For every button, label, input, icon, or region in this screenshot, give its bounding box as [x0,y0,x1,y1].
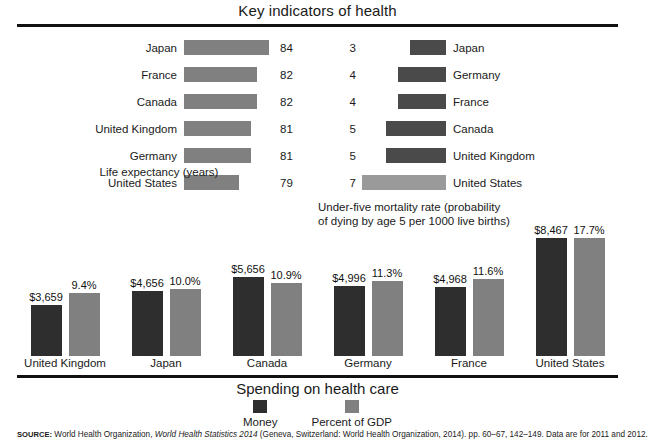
under-five-mortality-chart: 3Japan4Germany4France5Canada5United King… [318,34,635,199]
spending-gdp-barwrap: 11.3% [372,281,403,356]
mortality-bar-track [360,67,446,82]
spending-money-value-label: $4,656 [130,277,164,289]
source-text-after: (Geneva, Switzerland: World Health Organ… [258,430,648,439]
life-expectancy-row: United Kingdom81 [0,115,318,142]
life-expectancy-caption: Life expectancy (years) [0,166,318,178]
mortality-value-label: 5 [318,150,360,162]
life-expectancy-country-label: France [0,69,184,81]
life-expectancy-bar-track [184,40,276,55]
life-expectancy-row: Germany81 [0,142,318,169]
source-publication-title: World Health Statistics 2014 [155,430,258,439]
life-expectancy-value-label: 82 [276,96,293,108]
legend-label: Money [243,416,278,428]
life-expectancy-country-label: Japan [0,42,184,54]
mortality-row: 4France [318,88,635,115]
spending-chart: $3,6599.4%$4,65610.0%$5,65610.9%$4,99611… [17,222,618,356]
spending-title: Spending on health care [0,380,635,397]
life-expectancy-bar-track [184,67,276,82]
mortality-bar [386,148,446,163]
source-tag: SOURCE: [17,430,52,439]
spending-money-bar [31,305,62,356]
mortality-bar [398,67,446,82]
life-expectancy-row: France82 [0,61,318,88]
spending-gdp-barwrap: 10.0% [170,289,201,356]
spending-gdp-value-label: 10.9% [270,269,301,281]
spending-group: $5,65610.9% [219,222,315,356]
mortality-bar-track [360,148,446,163]
spending-gdp-bar [271,283,302,356]
spending-money-barwrap: $4,656 [132,291,163,356]
page-title: Key indicators of health [0,2,635,19]
spending-money-barwrap: $5,656 [233,277,264,356]
mortality-bar-track [360,121,446,136]
mortality-country-label: Japan [446,42,484,54]
spending-gdp-barwrap: 17.7% [574,238,605,356]
life-expectancy-row: Canada82 [0,88,318,115]
mortality-bar [362,175,446,190]
spending-category-label: Canada [219,357,315,369]
mortality-country-label: Germany [446,69,500,81]
mortality-bar [410,40,446,55]
legend-label: Percent of GDP [311,416,392,428]
spending-gdp-value-label: 9.4% [71,279,96,291]
mortality-country-label: United States [446,177,522,189]
mortality-row: 5United Kingdom [318,142,635,169]
spending-category-label: United States [522,357,618,369]
mortality-value-label: 5 [318,123,360,135]
life-expectancy-country-label: United States [0,177,184,189]
legend-swatch [345,400,359,413]
life-expectancy-value-label: 79 [276,177,293,189]
mortality-bar [386,121,446,136]
legend-item: Money [243,400,278,428]
spending-gdp-value-label: 17.7% [573,224,604,236]
spending-money-value-label: $8,467 [534,224,568,236]
life-expectancy-bar [184,148,251,163]
spending-category-label: France [421,357,517,369]
spending-category-label: Japan [118,357,214,369]
spending-money-barwrap: $4,996 [334,286,365,356]
mortality-row: 7United States [318,169,635,196]
mortality-bar-track [360,94,446,109]
spending-category-label: Germany [320,357,416,369]
spending-money-bar [233,277,264,356]
mortality-bar-track [360,175,446,190]
spending-gdp-bar [473,279,504,356]
spending-money-value-label: $4,968 [433,273,467,285]
life-expectancy-value-label: 82 [276,69,293,81]
spending-category-label: United Kingdom [17,357,113,369]
spending-gdp-value-label: 11.3% [372,267,402,279]
spending-gdp-bar [170,289,201,356]
spending-money-value-label: $4,996 [332,272,366,284]
spending-legend: MoneyPercent of GDP [0,400,635,428]
life-expectancy-country-label: Canada [0,96,184,108]
header-divider [17,24,618,27]
life-expectancy-bar [184,40,269,55]
mortality-country-label: Canada [446,123,493,135]
spending-group: $4,99611.3% [320,222,416,356]
spending-money-barwrap: $8,467 [536,238,567,356]
mortality-country-label: France [446,96,489,108]
spending-gdp-value-label: 10.0% [169,275,200,287]
life-expectancy-bar-track [184,94,276,109]
spending-money-value-label: $3,659 [29,291,63,303]
mortality-row: 5Canada [318,115,635,142]
life-expectancy-country-label: Germany [0,150,184,162]
spending-group: $4,96811.6% [421,222,517,356]
source-text-before: World Health Organization, [52,430,155,439]
life-expectancy-bar [184,67,257,82]
spending-gdp-barwrap: 11.6% [473,279,504,356]
spending-gdp-bar [574,238,605,356]
life-expectancy-country-label: United Kingdom [0,123,184,135]
mortality-country-label: United Kingdom [446,150,535,162]
mortality-value-label: 4 [318,96,360,108]
mortality-row: 3Japan [318,34,635,61]
spending-gdp-bar [372,281,403,356]
mortality-value-label: 4 [318,69,360,81]
mortality-bar [398,94,446,109]
spending-money-bar [334,286,365,356]
legend-swatch [253,400,267,413]
mortality-row: 4Germany [318,61,635,88]
legend-item: Percent of GDP [311,400,392,428]
mortality-value-label: 7 [318,177,360,189]
